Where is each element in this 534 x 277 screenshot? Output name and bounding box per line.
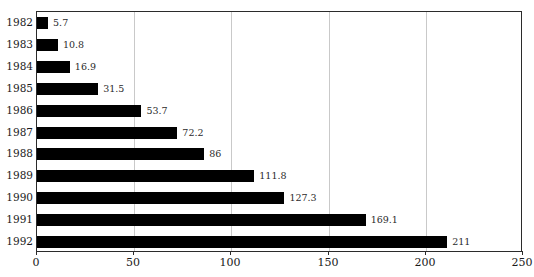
bar-row: 169.1	[37, 214, 521, 226]
x-axis-label-200: 200	[415, 255, 436, 271]
bar-value-label-1988: 86	[209, 147, 221, 160]
bar-row: 10.8	[37, 39, 521, 51]
bar-1991	[37, 214, 366, 226]
bar-row: 127.3	[37, 192, 521, 204]
y-axis-label-1991: 1991	[0, 213, 33, 225]
bar-chart: 1982198319841985198619871988198919901991…	[0, 0, 534, 277]
bar-value-label-1984: 16.9	[75, 60, 96, 73]
bar-1985	[37, 83, 98, 95]
y-axis-label-1982: 1982	[0, 16, 33, 28]
bar-1987	[37, 127, 177, 139]
y-axis-label-1990: 1990	[0, 191, 33, 203]
bar-1990	[37, 192, 284, 204]
bar-value-label-1992: 211	[452, 235, 470, 248]
bar-value-label-1985: 31.5	[103, 82, 124, 95]
y-axis-label-1984: 1984	[0, 60, 33, 72]
y-axis-label-1987: 1987	[0, 126, 33, 138]
y-axis-label-1988: 1988	[0, 147, 33, 159]
bar-row: 53.7	[37, 105, 521, 117]
bar-value-label-1989: 111.8	[259, 169, 286, 182]
plot-area: 5.710.816.931.553.772.286111.8127.3169.1…	[36, 11, 522, 252]
bar-1989	[37, 170, 254, 182]
bar-series: 5.710.816.931.553.772.286111.8127.3169.1…	[37, 12, 521, 251]
x-axis-label-250: 250	[512, 255, 533, 271]
bar-1988	[37, 148, 204, 160]
bar-row: 16.9	[37, 61, 521, 73]
x-axis-label-150: 150	[318, 255, 339, 271]
chart-title	[0, 0, 534, 2]
bar-value-label-1991: 169.1	[371, 213, 398, 226]
bar-row: 86	[37, 148, 521, 160]
bar-row: 5.7	[37, 17, 521, 29]
y-axis-label-1989: 1989	[0, 169, 33, 181]
bar-value-label-1987: 72.2	[182, 126, 203, 139]
bar-row: 31.5	[37, 83, 521, 95]
bar-value-label-1990: 127.3	[289, 191, 316, 204]
x-axis-label-50: 50	[126, 255, 140, 271]
bar-1986	[37, 105, 141, 117]
bar-1982	[37, 17, 48, 29]
bar-1992	[37, 236, 447, 248]
bar-1983	[37, 39, 58, 51]
bar-value-label-1982: 5.7	[53, 16, 68, 29]
y-axis-label-1992: 1992	[0, 235, 33, 247]
bar-1984	[37, 61, 70, 73]
bar-row: 211	[37, 236, 521, 248]
x-axis-tick-labels: 050100150200250	[0, 255, 534, 275]
y-axis-label-1983: 1983	[0, 38, 33, 50]
y-axis-label-1986: 1986	[0, 104, 33, 116]
bar-value-label-1986: 53.7	[146, 104, 167, 117]
x-axis-label-100: 100	[220, 255, 241, 271]
x-axis-label-0: 0	[33, 255, 40, 271]
y-axis-category-labels: 1982198319841985198619871988198919901991…	[0, 11, 33, 252]
bar-row: 72.2	[37, 127, 521, 139]
bar-row: 111.8	[37, 170, 521, 182]
y-axis-label-1985: 1985	[0, 82, 33, 94]
bar-value-label-1983: 10.8	[63, 38, 84, 51]
